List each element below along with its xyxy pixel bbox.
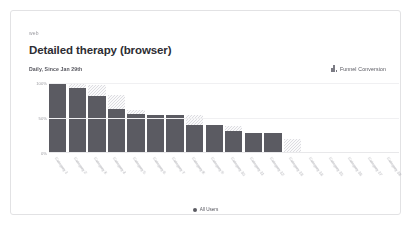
plot-area — [49, 83, 399, 153]
x-axis-label-slot: Category 12 — [264, 155, 281, 201]
x-axis-label-slot: Category 17 — [362, 155, 379, 201]
bar-segment-users — [147, 115, 164, 153]
bar-segment-funnel — [186, 115, 203, 126]
x-axis-label: Category 18 — [386, 156, 403, 177]
bar-segment-users — [186, 125, 203, 153]
y-axis-tick: 50% — [39, 116, 47, 121]
bar-segment-users — [88, 96, 105, 153]
y-axis-tick: 100% — [36, 81, 47, 86]
bar-chart-icon — [331, 65, 337, 72]
x-axis-label-slot: Category 18 — [382, 155, 399, 201]
bar-segment-funnel — [284, 139, 301, 153]
x-axis-label-slot: Category 3 — [88, 155, 105, 201]
bar-segment-users — [245, 133, 262, 153]
bar-segment-funnel — [108, 95, 125, 109]
x-axis-label-slot: Category 4 — [108, 155, 125, 201]
x-axis-label-slot: Category 8 — [186, 155, 203, 201]
chart-subtitle: Daily, Since Jan 29th — [29, 66, 82, 72]
screenshot-root: web Detailed therapy (browser) Daily, Si… — [0, 0, 413, 227]
gridline — [49, 118, 399, 119]
x-axis-label-slot: Category 15 — [323, 155, 340, 201]
x-axis-label: Category 11 — [249, 156, 265, 176]
bar-segment-funnel — [88, 85, 105, 96]
x-axis-label-slot: Category 10 — [225, 155, 242, 201]
x-axis-labels: Category 1Category 2Category 3Category 4… — [49, 155, 399, 201]
y-axis: 100%50%0% — [27, 83, 49, 153]
gridline — [49, 83, 399, 84]
x-axis-label: Category 1 — [54, 156, 69, 175]
x-axis-label-slot: Category 13 — [284, 155, 301, 201]
chart-card: web Detailed therapy (browser) Daily, Si… — [10, 10, 401, 215]
legend-marker-icon — [193, 208, 197, 212]
x-axis-label-slot: Category 14 — [303, 155, 320, 201]
x-axis-line — [49, 152, 399, 153]
bar-segment-users — [166, 115, 183, 153]
x-axis-label: Category 2 — [73, 156, 88, 175]
x-axis-label: Category 3 — [93, 156, 108, 175]
x-axis-label: Category 4 — [112, 156, 127, 175]
funnel-conversion-label: Funnel Conversion — [340, 66, 386, 72]
x-axis-label-slot: Category 5 — [127, 155, 144, 201]
bar-segment-users — [264, 133, 281, 153]
x-axis-label-slot: Category 6 — [147, 155, 164, 201]
chart-legend[interactable]: All Users — [11, 207, 400, 212]
x-axis-label: Category 5 — [132, 156, 147, 175]
x-axis-label-slot: Category 2 — [69, 155, 86, 201]
x-axis-label-slot: Category 16 — [342, 155, 359, 201]
bar-segment-users — [69, 88, 86, 153]
bar-segment-users — [127, 114, 144, 153]
y-axis-tick: 0% — [41, 151, 47, 156]
page-title: Detailed therapy (browser) — [29, 44, 171, 56]
bar-segment-users — [225, 131, 242, 153]
x-axis-label-slot: Category 11 — [245, 155, 262, 201]
x-axis-label-slot: Category 7 — [166, 155, 183, 201]
x-axis-label: Category 9 — [210, 156, 225, 175]
x-axis-label-slot: Category 1 — [49, 155, 66, 201]
x-axis-label-slot: Category 9 — [206, 155, 223, 201]
x-axis-label: Category 6 — [151, 156, 166, 175]
funnel-conversion-button[interactable]: Funnel Conversion — [331, 65, 386, 72]
breadcrumb[interactable]: web — [29, 30, 39, 36]
bar-segment-users — [206, 125, 223, 153]
x-axis-label: Category 8 — [191, 156, 206, 175]
legend-label: All Users — [200, 207, 218, 212]
x-axis-label: Category 7 — [171, 156, 186, 175]
bar-segment-users — [108, 109, 125, 153]
